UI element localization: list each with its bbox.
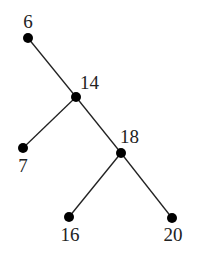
node-label-16: 16	[61, 224, 80, 245]
edge-18-16	[69, 153, 121, 217]
node-18	[116, 148, 126, 158]
tree-edges	[23, 38, 172, 218]
node-label-20: 20	[164, 224, 183, 245]
edge-18-20	[121, 153, 172, 218]
tree-diagram: 6147181620	[0, 0, 198, 264]
node-20	[167, 213, 177, 223]
node-7	[18, 143, 28, 153]
node-label-7: 7	[18, 155, 28, 176]
node-16	[64, 212, 74, 222]
edge-6-14	[28, 38, 76, 97]
node-14	[71, 92, 81, 102]
node-6	[23, 33, 33, 43]
edge-14-18	[76, 97, 121, 153]
node-label-18: 18	[120, 126, 139, 147]
node-label-14: 14	[80, 72, 100, 93]
edge-14-7	[23, 97, 76, 148]
node-label-6: 6	[23, 11, 33, 32]
